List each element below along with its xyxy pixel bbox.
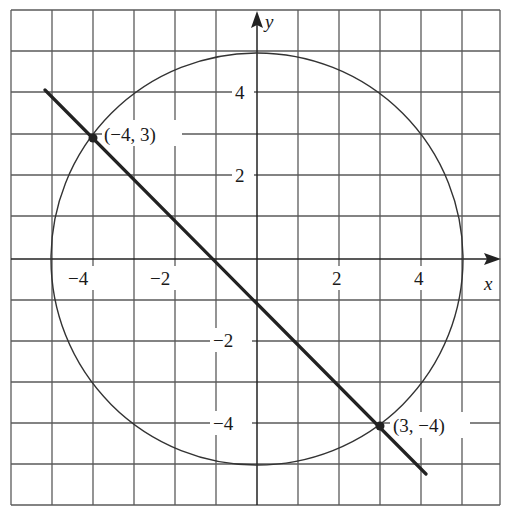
x-axis-label: x: [483, 273, 493, 294]
point-b-label: (3, −4): [393, 415, 445, 437]
coordinate-diagram: y x −4 −2 2 4 4 2 −2 −4 (−4, 3) (3, −4): [0, 0, 508, 519]
point-a-label: (−4, 3): [104, 124, 156, 146]
point-a-marker: [89, 134, 98, 143]
y-tick-minus-2: −2: [213, 330, 233, 351]
x-tick-4: 4: [414, 268, 424, 289]
x-tick-minus-4: −4: [68, 268, 89, 289]
y-tick-4: 4: [235, 82, 245, 103]
x-tick-minus-2: −2: [150, 268, 170, 289]
y-axis-label: y: [263, 11, 274, 32]
y-tick-minus-4: −4: [213, 413, 234, 434]
point-b-marker: [376, 422, 385, 431]
x-tick-2: 2: [332, 268, 342, 289]
y-tick-2: 2: [235, 165, 245, 186]
